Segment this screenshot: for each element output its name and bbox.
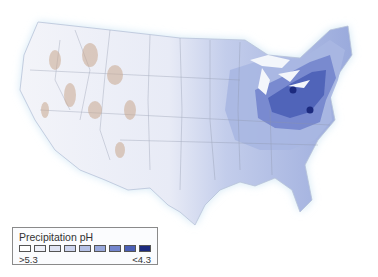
legend-swatch bbox=[79, 245, 91, 252]
legend-swatch bbox=[34, 245, 46, 252]
acid-hotspot bbox=[290, 87, 297, 94]
legend-swatch bbox=[139, 245, 151, 252]
legend-high-label: <4.3 bbox=[132, 254, 151, 265]
legend-swatch bbox=[124, 245, 136, 252]
legend-swatch bbox=[64, 245, 76, 252]
legend-swatches bbox=[19, 245, 151, 252]
acid-hotspot bbox=[307, 107, 314, 114]
legend-swatch bbox=[19, 245, 31, 252]
legend-swatch bbox=[49, 245, 61, 252]
legend-title: Precipitation pH bbox=[19, 231, 93, 243]
legend: Precipitation pH >5.3 <4.3 bbox=[12, 227, 158, 265]
legend-swatch bbox=[94, 245, 106, 252]
legend-low-label: >5.3 bbox=[19, 254, 38, 265]
legend-swatch bbox=[109, 245, 121, 252]
